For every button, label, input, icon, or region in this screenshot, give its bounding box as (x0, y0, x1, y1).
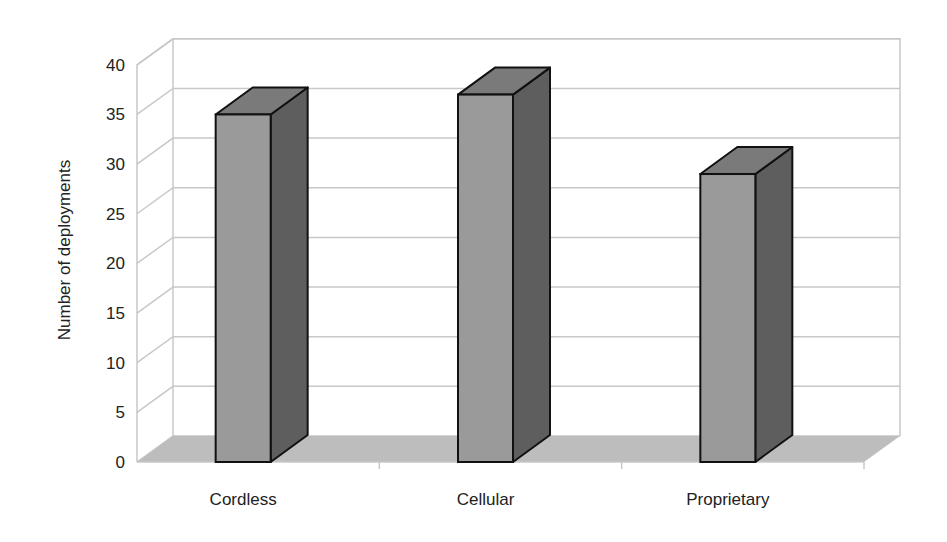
x-tick-label: Cordless (210, 490, 277, 509)
y-tick-label: 5 (116, 403, 125, 422)
bar-cordless (216, 87, 308, 462)
y-tick-label: 20 (106, 254, 125, 273)
y-axis-label: Number of deployments (55, 160, 74, 340)
y-tick-label: 0 (116, 453, 125, 472)
y-tick-label: 25 (106, 205, 125, 224)
bar-proprietary (700, 147, 792, 462)
x-tick-label: Cellular (457, 490, 515, 509)
x-tick-label: Proprietary (686, 490, 770, 509)
y-tick-label: 35 (106, 105, 125, 124)
y-tick-label: 10 (106, 354, 125, 373)
bar-chart: 0510152025303540 CordlessCellularProprie… (0, 0, 947, 542)
gridline (137, 39, 900, 65)
y-axis-ticks: 0510152025303540 (106, 56, 125, 472)
bar-cellular (458, 68, 550, 462)
y-tick-label: 40 (106, 56, 125, 75)
y-tick-label: 15 (106, 304, 125, 323)
y-tick-label: 30 (106, 155, 125, 174)
bars (216, 68, 793, 462)
x-axis-labels: CordlessCellularProprietary (210, 490, 770, 509)
